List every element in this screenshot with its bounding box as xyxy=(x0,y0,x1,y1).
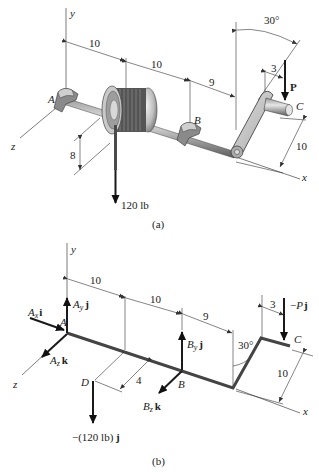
ext-line-8a xyxy=(74,118,100,141)
force-by-label: Byj xyxy=(187,338,203,352)
rope xyxy=(114,125,117,170)
ext-line-c xyxy=(280,118,306,120)
dim-10b: 10 xyxy=(151,58,163,70)
dim-8: 8 xyxy=(70,149,76,161)
caption-b: (b) xyxy=(152,455,165,468)
dim-b10a: 10 xyxy=(90,274,102,286)
x-axis-label-b: x xyxy=(302,405,308,417)
diagram-canvas: y z x 10 10 9 30° 3 10 xyxy=(0,0,319,472)
dim-b10-crank: 10 xyxy=(277,367,289,379)
figure-a: y z x 10 10 9 30° 3 10 xyxy=(10,7,308,231)
point-c-label: C xyxy=(296,100,304,112)
figure-b: y z x 10 10 9 3 10 30° xyxy=(12,243,313,468)
force-p-label-b: −Pj xyxy=(290,299,308,311)
dim-line-4 xyxy=(120,362,147,389)
ext-line-d2 xyxy=(95,381,122,392)
bearing-a xyxy=(54,88,78,112)
point-b-label: B xyxy=(194,114,201,126)
z-axis xyxy=(20,108,56,138)
point-c-label-b: C xyxy=(294,333,302,345)
point-a-label: A xyxy=(47,93,55,105)
force-az-label: Azk xyxy=(49,354,69,368)
x-axis xyxy=(236,157,300,179)
x-axis-label: x xyxy=(301,171,307,183)
x-axis-b xyxy=(236,389,300,413)
weight-label: 120 lb xyxy=(121,199,149,211)
drum xyxy=(102,86,157,134)
dim-4: 4 xyxy=(136,374,142,386)
ext-line-8b xyxy=(74,143,110,175)
z-axis-label: z xyxy=(10,140,16,152)
caption-a: (a) xyxy=(152,218,165,231)
dim-10a: 10 xyxy=(89,37,101,49)
y-axis-label-b: y xyxy=(70,243,76,255)
point-b-label-b: B xyxy=(178,378,185,390)
dim-3: 3 xyxy=(271,62,277,74)
dim-10-crank: 10 xyxy=(296,140,308,152)
force-ax-label: Axi xyxy=(27,306,42,320)
dim-b9: 9 xyxy=(203,310,209,322)
ext-line-d xyxy=(95,352,124,380)
force-ay-label: Ayj xyxy=(72,298,89,312)
ext-line-bx xyxy=(236,391,283,404)
y-axis-label: y xyxy=(69,7,75,19)
force-p-label: P xyxy=(290,81,297,93)
point-d-label-b: D xyxy=(80,376,89,388)
force-bz-label: Bzk xyxy=(143,400,162,414)
dim-9: 9 xyxy=(209,76,215,88)
angle-label-b: 30° xyxy=(238,339,253,351)
dim-b3: 3 xyxy=(270,298,276,310)
angle-label: 30° xyxy=(264,14,279,26)
point-a-label-b: A xyxy=(59,316,67,328)
crank xyxy=(231,91,293,158)
ext-line-bc xyxy=(292,350,313,356)
weight-label-b: −(120 lb) j xyxy=(72,431,120,444)
z-axis-label-b: z xyxy=(12,378,18,390)
dim-b10b: 10 xyxy=(150,293,162,305)
angle-arc xyxy=(237,29,297,44)
ext-line-x xyxy=(236,162,283,173)
